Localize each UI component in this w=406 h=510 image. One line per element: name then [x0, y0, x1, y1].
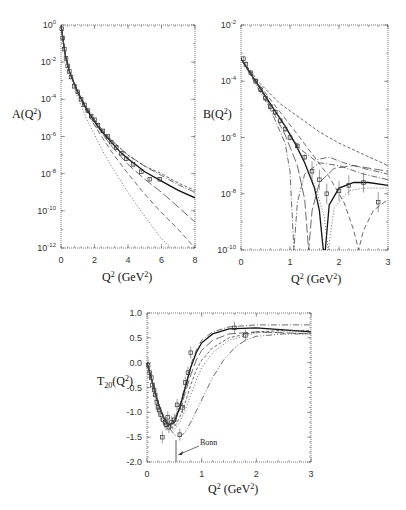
curve-dotted: [241, 59, 388, 250]
bonn-annotation: Bonn: [176, 438, 217, 462]
panel-t20-data-points: [146, 322, 247, 443]
y-tick-label: 10-4: [41, 93, 57, 104]
x-tick-label: 0: [58, 255, 63, 265]
x-tick-label: 6: [159, 255, 164, 265]
x-tick-label: 3: [308, 469, 313, 479]
curve-long-dash: [147, 332, 311, 425]
figure: 0246810010-210-410-610-810-1010-12 A(Q2)…: [0, 0, 406, 510]
bonn-label: Bonn: [200, 438, 217, 447]
curve-long-dash: [61, 25, 195, 222]
x-tick-label: 0: [144, 469, 149, 479]
curve-long-dash: [241, 59, 388, 250]
y-tick-label: -1.0: [126, 407, 142, 417]
curve-dash-far-dip: [241, 59, 388, 250]
curve-dotted-steep: [61, 25, 172, 248]
curve-solid: [147, 328, 311, 425]
x-tick-label: 2: [336, 257, 341, 267]
panel-t20: 01231.00.50.0-0.5-1.0-1.5-2.0 T20(Q2) Q2…: [97, 308, 314, 496]
curve-dash-dot-dip: [241, 59, 388, 250]
y-tick-label: 10-6: [41, 131, 57, 142]
curve-dotted: [147, 332, 311, 430]
panel-a-ylabel: A(Q2): [12, 107, 41, 121]
y-tick-label: 1.0: [129, 308, 142, 318]
curve-medium-dash: [61, 25, 195, 248]
curve-solid: [61, 25, 195, 198]
y-tick-label: 10-8: [221, 188, 237, 199]
curve-short-dash: [147, 330, 311, 427]
x-tick-label: 1: [287, 257, 292, 267]
y-tick-label: 10-12: [37, 242, 56, 253]
x-tick-label: 2: [92, 255, 97, 265]
panel-b-frame: [241, 25, 388, 250]
panel-a-frame: [61, 25, 195, 248]
panel-b-curves: [241, 59, 388, 250]
y-tick-label: 10-2: [221, 19, 237, 30]
x-tick-label: 1: [199, 469, 204, 479]
panel-b-ylabel: B(Q2): [203, 107, 232, 121]
x-tick-label: 0: [238, 257, 243, 267]
curve-dash-dot: [147, 325, 311, 425]
panel-a: 0246810010-210-410-610-810-1010-12 A(Q2)…: [12, 19, 198, 284]
panel-b-xlabel: Q2 (GeV2): [291, 272, 341, 286]
x-tick-label: 4: [125, 255, 130, 265]
curve-short-dash-top: [241, 59, 388, 166]
y-tick-label: 0.0: [129, 358, 142, 368]
y-tick-label: 10-10: [217, 244, 236, 255]
panel-a-xlabel: Q2 (GeV2): [102, 270, 152, 284]
y-tick-label: 10-6: [221, 132, 237, 143]
y-tick-label: 10-10: [37, 205, 56, 216]
curve-short-dash: [61, 25, 195, 190]
y-tick-label: 10-2: [41, 56, 57, 67]
y-tick-label: -1.5: [126, 432, 142, 442]
panel-t20-frame: [147, 313, 311, 462]
x-tick-label: 2: [254, 469, 259, 479]
y-tick-label: 100: [43, 19, 57, 30]
panel-a-data-points: [60, 27, 162, 182]
y-tick-label: 0.5: [129, 333, 142, 343]
panel-t20-xlabel: Q2 (GeV2): [208, 482, 258, 496]
y-tick-label: 10-8: [41, 168, 57, 179]
x-tick-label: 8: [192, 255, 197, 265]
curve-dash-dot: [61, 25, 195, 192]
panel-a-curves: [61, 25, 195, 248]
curve-solid: [241, 59, 388, 250]
y-tick-label: 10-4: [221, 75, 237, 86]
x-tick-label: 3: [385, 257, 390, 267]
panel-b: 012310-210-410-610-810-10 B(Q2) Q2 (GeV2…: [203, 19, 391, 286]
y-tick-label: -2.0: [126, 457, 142, 467]
